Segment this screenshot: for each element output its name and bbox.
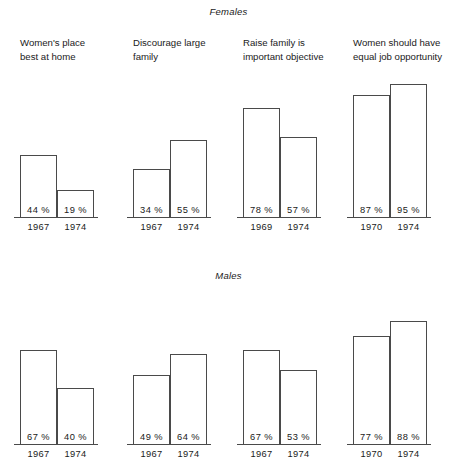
tick-label: 1974 bbox=[280, 449, 317, 459]
bar: 88 % bbox=[390, 321, 427, 444]
tick-label: 1974 bbox=[57, 222, 94, 232]
bar-value-label: 40 % bbox=[58, 432, 93, 442]
bar: 95 % bbox=[390, 84, 427, 217]
tick-labels: 1967 1974 bbox=[119, 445, 227, 461]
bar-value-label: 55 % bbox=[171, 205, 206, 215]
bar-value-label: 19 % bbox=[58, 205, 93, 215]
bar-value-label: 88 % bbox=[391, 432, 426, 442]
bar: 87 % bbox=[353, 95, 390, 217]
bar: 53 % bbox=[280, 370, 317, 444]
plot-area: 34 % 55 % bbox=[119, 78, 227, 218]
tick-labels: 1967 1974 bbox=[6, 445, 114, 461]
tick-labels: 1969 1974 bbox=[229, 218, 337, 234]
tick-label: 1974 bbox=[57, 449, 94, 459]
bar-value-label: 34 % bbox=[134, 205, 169, 215]
tick-label: 1967 bbox=[133, 449, 170, 459]
bar: 67 % bbox=[243, 350, 280, 444]
tick-label: 1969 bbox=[243, 222, 280, 232]
bar: 78 % bbox=[243, 108, 280, 217]
tick-labels: 1967 1974 bbox=[119, 218, 227, 234]
bar: 77 % bbox=[353, 336, 390, 444]
panel-males: Males 67 % 40 % 1967 1974 49 % bbox=[0, 240, 457, 430]
plot-area: 87 % 95 % bbox=[339, 78, 447, 218]
plot-area: 44 % 19 % bbox=[6, 78, 114, 218]
plot-area: 67 % 40 % bbox=[6, 287, 114, 445]
bar-value-label: 64 % bbox=[171, 432, 206, 442]
tick-label: 1970 bbox=[353, 449, 390, 459]
tick-label: 1974 bbox=[390, 222, 427, 232]
tick-label: 1974 bbox=[280, 222, 317, 232]
group-heading: Discourage large family bbox=[133, 36, 245, 63]
bar-value-label: 67 % bbox=[244, 432, 279, 442]
bar: 67 % bbox=[20, 350, 57, 444]
tick-label: 1970 bbox=[353, 222, 390, 232]
tick-label: 1967 bbox=[243, 449, 280, 459]
group-heading: Women's place best at home bbox=[20, 36, 132, 63]
tick-label: 1974 bbox=[170, 222, 207, 232]
bar-value-label: 49 % bbox=[134, 432, 169, 442]
bar: 64 % bbox=[170, 354, 207, 444]
bar: 57 % bbox=[280, 137, 317, 217]
bar-groups-males: 67 % 40 % 1967 1974 49 % 64 % bbox=[0, 240, 457, 430]
tick-labels: 1970 1974 bbox=[339, 445, 447, 461]
bar-value-label: 67 % bbox=[21, 432, 56, 442]
tick-label: 1974 bbox=[170, 449, 207, 459]
tick-label: 1974 bbox=[390, 449, 427, 459]
bar: 34 % bbox=[133, 169, 170, 217]
bar: 40 % bbox=[57, 388, 94, 444]
bar-value-label: 57 % bbox=[281, 205, 316, 215]
tick-labels: 1970 1974 bbox=[339, 218, 447, 234]
bar-value-label: 44 % bbox=[21, 205, 56, 215]
bar-groups-females: Women's place best at home 44 % 19 % 196… bbox=[0, 0, 457, 240]
bar-value-label: 78 % bbox=[244, 205, 279, 215]
bar-value-label: 77 % bbox=[354, 432, 389, 442]
bar: 49 % bbox=[133, 375, 170, 444]
bar: 19 % bbox=[57, 190, 94, 217]
group-heading: Women should have equal job opportunity bbox=[353, 36, 457, 63]
bar: 55 % bbox=[170, 140, 207, 217]
bar-value-label: 87 % bbox=[354, 205, 389, 215]
tick-label: 1967 bbox=[20, 449, 57, 459]
panel-females: Females Women's place best at home 44 % … bbox=[0, 0, 457, 240]
group-heading: Raise family is important objective bbox=[243, 36, 355, 63]
tick-labels: 1967 1974 bbox=[229, 445, 337, 461]
plot-area: 78 % 57 % bbox=[229, 78, 337, 218]
plot-area: 77 % 88 % bbox=[339, 287, 447, 445]
bar: 44 % bbox=[20, 155, 57, 217]
plot-area: 67 % 53 % bbox=[229, 287, 337, 445]
bar-value-label: 53 % bbox=[281, 432, 316, 442]
plot-area: 49 % 64 % bbox=[119, 287, 227, 445]
tick-label: 1967 bbox=[133, 222, 170, 232]
tick-label: 1967 bbox=[20, 222, 57, 232]
tick-labels: 1967 1974 bbox=[6, 218, 114, 234]
bar-value-label: 95 % bbox=[391, 205, 426, 215]
